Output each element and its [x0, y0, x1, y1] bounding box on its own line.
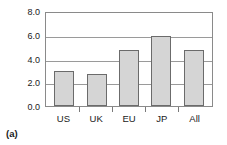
x-tick-label-eu: EU	[113, 112, 146, 128]
bar-slot-eu	[113, 13, 145, 106]
bar-jp[interactable]	[151, 36, 171, 106]
y-tick-label-2: 2.0	[14, 79, 40, 88]
bar-all[interactable]	[184, 50, 204, 106]
x-tick-label-jp: JP	[145, 112, 178, 128]
y-tick-label-4: 4.0	[14, 55, 40, 64]
x-tick-label-all: All	[178, 112, 211, 128]
bar-slot-jp	[145, 13, 177, 106]
bar-slot-us	[48, 13, 80, 106]
bar-slot-all	[178, 13, 210, 106]
y-tick-label-8: 8.0	[14, 8, 40, 17]
x-tick-label-us: US	[47, 112, 80, 128]
bar-chart-figure: 8.0 6.0 4.0 2.0 0.0	[0, 0, 227, 145]
plot-area	[45, 12, 213, 107]
y-tick-label-0: 0.0	[14, 103, 40, 112]
bar-series	[46, 13, 212, 106]
bar-us[interactable]	[54, 71, 74, 106]
x-axis-tick-labels: US UK EU JP All	[45, 112, 213, 128]
bar-slot-uk	[80, 13, 112, 106]
y-tick-label-6: 6.0	[14, 31, 40, 40]
bar-eu[interactable]	[119, 50, 139, 106]
y-axis-tick-labels: 8.0 6.0 4.0 2.0 0.0	[12, 0, 40, 145]
bar-uk[interactable]	[87, 74, 107, 106]
figure-caption: (a)	[6, 128, 18, 140]
x-tick-label-uk: UK	[80, 112, 113, 128]
